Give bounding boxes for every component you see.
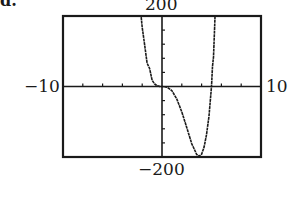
graphing-window bbox=[0, 0, 295, 206]
